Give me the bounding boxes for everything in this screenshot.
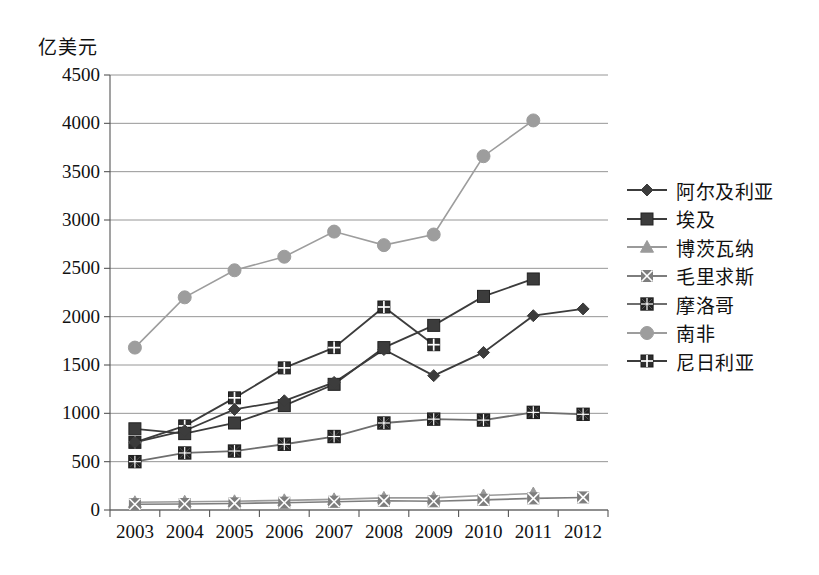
legend-label: 阿尔及利亚	[676, 177, 774, 204]
legend-item-3[interactable]: 毛里求斯	[624, 262, 814, 291]
legend-label: 埃及	[676, 205, 715, 232]
data-point-marker	[179, 499, 190, 510]
data-point-marker	[578, 492, 589, 503]
data-point-marker	[428, 370, 440, 382]
data-point-marker	[478, 494, 489, 505]
data-point-marker	[229, 392, 241, 404]
data-point-marker	[641, 213, 653, 225]
legend-marker-icon	[624, 180, 670, 200]
legend-item-0[interactable]: 阿尔及利亚	[624, 176, 814, 205]
legend-label: 南非	[676, 319, 715, 346]
y-tick-label: 500	[28, 451, 100, 473]
data-point-marker	[428, 339, 440, 351]
legend-label: 毛里求斯	[676, 262, 754, 289]
legend-label: 博茨瓦纳	[676, 234, 754, 261]
y-tick-label: 1000	[28, 402, 100, 424]
data-point-marker	[641, 184, 653, 196]
data-point-marker	[642, 270, 653, 281]
data-point-marker	[228, 264, 241, 277]
data-point-marker	[129, 499, 140, 510]
data-point-marker	[478, 290, 490, 302]
legend-item-4[interactable]: 摩洛哥	[624, 290, 814, 319]
data-point-marker	[229, 445, 241, 457]
data-point-marker	[178, 291, 191, 304]
data-point-marker	[128, 341, 141, 354]
data-point-marker	[577, 408, 589, 420]
data-point-marker	[129, 456, 141, 468]
data-point-marker	[527, 273, 539, 285]
data-point-marker	[428, 413, 440, 425]
data-point-marker	[527, 406, 539, 418]
legend-marker-icon	[624, 351, 670, 371]
chart-legend: 阿尔及利亚埃及博茨瓦纳毛里求斯摩洛哥南非尼日利亚	[624, 176, 814, 376]
legend-marker-icon	[624, 266, 670, 286]
plot-svg	[110, 75, 608, 510]
data-point-marker	[641, 355, 653, 367]
legend-item-6[interactable]: 尼日利亚	[624, 347, 814, 376]
data-point-marker	[328, 342, 340, 354]
data-point-marker	[229, 498, 240, 509]
y-tick-label: 0	[28, 499, 100, 521]
data-point-marker	[328, 431, 340, 443]
legend-label: 摩洛哥	[676, 291, 735, 318]
legend-item-5[interactable]: 南非	[624, 319, 814, 348]
line-chart: 亿美元 050010001500200025003000350040004500…	[0, 0, 819, 575]
data-point-marker	[428, 496, 439, 507]
y-tick-label: 2500	[28, 257, 100, 279]
data-point-marker	[641, 298, 653, 310]
data-point-marker	[528, 493, 539, 504]
legend-item-2[interactable]: 博茨瓦纳	[624, 233, 814, 262]
data-point-marker	[428, 319, 440, 331]
data-point-marker	[328, 225, 341, 238]
data-point-marker	[129, 423, 141, 435]
series-line	[135, 412, 583, 461]
data-point-marker	[279, 497, 290, 508]
series-line	[135, 309, 583, 442]
data-point-marker	[278, 362, 290, 374]
y-tick-label: 4000	[28, 112, 100, 134]
legend-marker-icon	[624, 209, 670, 229]
data-point-marker	[278, 250, 291, 263]
data-point-marker	[179, 447, 191, 459]
data-point-marker	[278, 438, 290, 450]
data-point-marker	[378, 301, 390, 313]
data-point-marker	[641, 326, 654, 339]
data-point-marker	[329, 496, 340, 507]
y-tick-label: 3000	[28, 209, 100, 231]
legend-marker-icon	[624, 323, 670, 343]
data-point-marker	[378, 417, 390, 429]
x-tick-label: 2012	[551, 521, 615, 543]
data-point-marker	[527, 114, 540, 127]
legend-marker-icon	[624, 294, 670, 314]
data-point-marker	[477, 150, 490, 163]
y-tick-label: 2000	[28, 306, 100, 328]
data-point-marker	[577, 303, 589, 315]
legend-item-1[interactable]: 埃及	[624, 205, 814, 234]
data-point-marker	[377, 239, 390, 252]
y-tick-label: 1500	[28, 354, 100, 376]
data-point-marker	[378, 495, 389, 506]
data-point-marker	[478, 414, 490, 426]
legend-label: 尼日利亚	[676, 348, 754, 375]
plot-area	[110, 75, 608, 510]
legend-marker-icon	[624, 237, 670, 257]
data-point-marker	[229, 417, 241, 429]
data-point-marker	[427, 228, 440, 241]
y-tick-label: 4500	[28, 64, 100, 86]
y-tick-label: 3500	[28, 161, 100, 183]
y-axis-unit-label: 亿美元	[38, 32, 98, 59]
